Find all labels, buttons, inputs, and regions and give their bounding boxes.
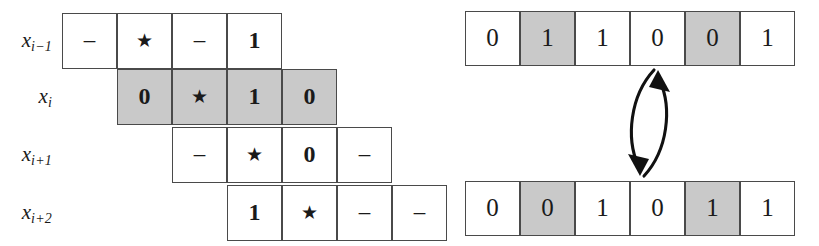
bit-cell[interactable]: 0 (520, 181, 575, 236)
bit-value: 1 (706, 195, 719, 220)
bit-cell[interactable]: 0 (465, 181, 520, 236)
bit-cell[interactable]: 1 (740, 181, 795, 236)
bit-value: 0 (541, 195, 554, 220)
bit-cell[interactable]: 1 (575, 181, 630, 236)
figure-canvas: xi−1–★–1xi0★10xi+1–★0–xi+21★––0110010010… (0, 0, 819, 246)
swap-double-arrow-icon (604, 64, 694, 182)
bit-string-bottom: 001011 (0, 0, 819, 246)
bit-cell[interactable]: 0 (630, 181, 685, 236)
bit-value: 0 (651, 195, 664, 220)
bit-value: 1 (596, 195, 609, 220)
bit-cell[interactable]: 1 (685, 181, 740, 236)
bit-value: 0 (486, 195, 499, 220)
bit-value: 1 (761, 195, 774, 220)
